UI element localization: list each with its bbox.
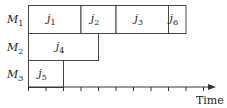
machine-labels: M1M2M3 — [6, 13, 23, 83]
job-blocks: j1j2j3j6j4j5 — [29, 5, 187, 88]
job-block-2: j2 — [81, 6, 116, 34]
machine-label-1: M1 — [6, 13, 23, 28]
job-block-6: j6 — [166, 6, 186, 34]
job-block-1: j1 — [29, 6, 82, 34]
time-axis-arrow-icon — [208, 84, 216, 90]
job-block-3: j3 — [116, 6, 169, 34]
job-block-4: j4 — [29, 34, 99, 61]
machine-label-3: M3 — [6, 68, 23, 83]
time-axis: Time — [28, 84, 224, 107]
gantt-chart: M1M2M3 j1j2j3j6j4j5 Time — [0, 0, 227, 108]
job-block-5: j5 — [29, 61, 64, 88]
time-axis-label: Time — [196, 94, 224, 107]
machine-label-2: M2 — [6, 41, 23, 56]
